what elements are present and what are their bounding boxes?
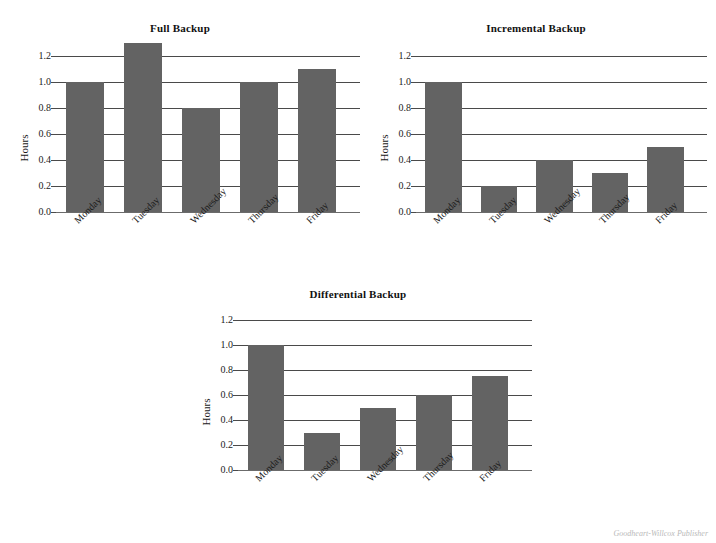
plot-area: 0.00.20.40.60.81.01.2MondayTuesdayWednes…: [56, 56, 346, 212]
bar: [647, 147, 684, 212]
bar: [66, 82, 104, 212]
y-tick-label: 1.2: [399, 51, 412, 61]
chart-title: Differential Backup: [178, 288, 538, 300]
y-tick-mark: [51, 160, 56, 161]
gridline: [238, 320, 532, 321]
y-tick-label: 1.0: [399, 77, 412, 87]
y-tick-label: 0.2: [221, 440, 234, 450]
y-tick-mark: [411, 186, 416, 187]
y-tick-label: 0.4: [39, 155, 52, 165]
y-axis-title: Hours: [378, 118, 390, 178]
y-tick-mark: [411, 82, 416, 83]
y-tick-label: 0.0: [221, 465, 234, 475]
plot-area: 0.00.20.40.60.81.01.2MondayTuesdayWednes…: [238, 320, 518, 470]
plot-area: 0.00.20.40.60.81.01.2MondayTuesdayWednes…: [416, 56, 693, 212]
y-tick-mark: [233, 420, 238, 421]
chart-incremental-backup: Incremental Backup Hours 0.00.20.40.60.8…: [356, 22, 716, 272]
chart-title: Full Backup: [0, 22, 360, 34]
y-tick-label: 0.8: [399, 103, 412, 113]
gridline: [56, 56, 360, 57]
bar: [425, 82, 462, 212]
y-tick-label: 1.0: [221, 340, 234, 350]
bar: [248, 345, 285, 470]
y-tick-mark: [411, 56, 416, 57]
y-tick-mark: [233, 320, 238, 321]
y-tick-label: 1.2: [221, 315, 234, 325]
y-tick-mark: [233, 370, 238, 371]
bar: [472, 376, 509, 470]
chart-full-backup: Full Backup Hours 0.00.20.40.60.81.01.2M…: [0, 22, 360, 272]
y-tick-mark: [51, 82, 56, 83]
y-tick-label: 0.6: [221, 390, 234, 400]
y-tick-mark: [233, 445, 238, 446]
y-tick-label: 0.2: [399, 181, 412, 191]
y-tick-label: 0.6: [399, 129, 412, 139]
gridline: [416, 56, 707, 57]
y-tick-mark: [51, 186, 56, 187]
y-tick-label: 0.4: [399, 155, 412, 165]
y-axis-title: Hours: [18, 118, 30, 178]
y-tick-mark: [411, 134, 416, 135]
y-tick-label: 0.0: [399, 207, 412, 217]
y-tick-label: 1.0: [39, 77, 52, 87]
y-tick-mark: [51, 212, 56, 213]
y-tick-label: 1.2: [39, 51, 52, 61]
y-tick-mark: [411, 108, 416, 109]
y-tick-label: 0.4: [221, 415, 234, 425]
y-tick-mark: [51, 56, 56, 57]
chart-title: Incremental Backup: [356, 22, 716, 34]
y-tick-mark: [51, 134, 56, 135]
publisher-credit: Goodheart-Willcox Publisher: [614, 529, 708, 538]
y-tick-mark: [51, 108, 56, 109]
y-tick-label: 0.8: [39, 103, 52, 113]
bar: [124, 43, 162, 212]
y-tick-label: 0.6: [39, 129, 52, 139]
y-tick-mark: [233, 345, 238, 346]
y-tick-label: 0.2: [39, 181, 52, 191]
y-tick-mark: [233, 470, 238, 471]
y-axis-title: Hours: [200, 382, 212, 442]
y-tick-mark: [233, 395, 238, 396]
y-tick-label: 0.0: [39, 207, 52, 217]
y-tick-label: 0.8: [221, 365, 234, 375]
y-tick-mark: [411, 212, 416, 213]
chart-differential-backup: Differential Backup Hours 0.00.20.40.60.…: [178, 288, 538, 538]
y-tick-mark: [411, 160, 416, 161]
bar: [298, 69, 336, 212]
